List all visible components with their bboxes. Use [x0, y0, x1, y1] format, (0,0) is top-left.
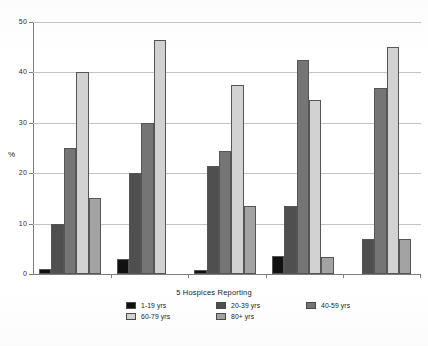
bar-60-79-yrs-group-1	[76, 72, 88, 274]
bar-80+-yrs-group-3	[244, 206, 256, 274]
bar-80+-yrs-group-1	[89, 198, 101, 274]
legend-label: 80+ yrs	[231, 313, 254, 320]
y-tick-mark	[29, 173, 33, 174]
x-axis-title: 5 Hospices Reporting	[0, 288, 428, 297]
legend-swatch-icon	[306, 302, 316, 309]
bar-1-19-yrs-group-3	[194, 270, 206, 274]
y-tick-label: 30	[5, 119, 27, 127]
legend-spacer	[306, 311, 376, 322]
legend-swatch-icon	[216, 302, 226, 309]
gridline	[33, 22, 421, 23]
legend-item-80-plus-yrs: 80+ yrs	[216, 311, 306, 322]
gridline	[33, 123, 421, 124]
chart-legend: 1-19 yrs 20-39 yrs 40-59 yrs 60-79 yrs 8…	[126, 300, 376, 322]
legend-swatch-icon	[126, 313, 136, 320]
legend-label: 60-79 yrs	[141, 313, 170, 320]
legend-label: 40-59 yrs	[321, 302, 350, 309]
legend-row-2: 60-79 yrs 80+ yrs	[126, 311, 376, 322]
bar-40-59-yrs-group-2	[141, 123, 153, 274]
legend-item-40-59-yrs: 40-59 yrs	[306, 300, 376, 311]
y-tick-label: 20	[5, 169, 27, 177]
bar-20-39-yrs-group-4	[284, 206, 296, 274]
y-axis-line	[33, 22, 34, 275]
y-tick-label: 0	[5, 270, 27, 278]
x-tick-mark	[420, 274, 421, 278]
plot-area	[33, 22, 421, 275]
bar-80+-yrs-group-5	[399, 239, 411, 274]
y-tick-label: 50	[5, 18, 27, 26]
bar-20-39-yrs-group-3	[207, 166, 219, 274]
bar-20-39-yrs-group-1	[51, 224, 63, 274]
y-tick-mark	[29, 224, 33, 225]
bar-40-59-yrs-group-4	[297, 60, 309, 274]
bar-80+-yrs-group-4	[321, 257, 333, 274]
y-tick-mark	[29, 72, 33, 73]
legend-swatch-icon	[126, 302, 136, 309]
bar-1-19-yrs-group-1	[39, 269, 51, 274]
x-tick-mark	[188, 274, 189, 278]
gridline	[33, 72, 421, 73]
y-tick-mark	[29, 123, 33, 124]
bar-60-79-yrs-group-4	[309, 100, 321, 274]
y-axis-title: %	[8, 150, 15, 159]
bar-40-59-yrs-group-1	[64, 148, 76, 274]
bar-40-59-yrs-group-5	[374, 88, 386, 274]
y-tick-label: 10	[5, 220, 27, 228]
bar-60-79-yrs-group-3	[231, 85, 243, 274]
bar-1-19-yrs-group-4	[272, 256, 284, 274]
legend-item-20-39-yrs: 20-39 yrs	[216, 300, 306, 311]
legend-row-1: 1-19 yrs 20-39 yrs 40-59 yrs	[126, 300, 376, 311]
bar-chart-figure: % 01020304050 5 Hospices Reporting 1-19 …	[0, 0, 428, 346]
bar-60-79-yrs-group-2	[154, 40, 166, 274]
bar-60-79-yrs-group-5	[387, 47, 399, 274]
x-tick-mark	[111, 274, 112, 278]
legend-item-1-19-yrs: 1-19 yrs	[126, 300, 216, 311]
legend-item-60-79-yrs: 60-79 yrs	[126, 311, 216, 322]
bar-20-39-yrs-group-2	[129, 173, 141, 274]
bar-1-19-yrs-group-2	[117, 259, 129, 274]
y-tick-mark	[29, 274, 33, 275]
y-tick-label: 40	[5, 68, 27, 76]
x-axis-line	[33, 274, 421, 275]
bar-40-59-yrs-group-3	[219, 151, 231, 274]
x-tick-mark	[343, 274, 344, 278]
x-tick-mark	[266, 274, 267, 278]
y-tick-mark	[29, 22, 33, 23]
legend-label: 1-19 yrs	[141, 302, 166, 309]
legend-swatch-icon	[216, 313, 226, 320]
bar-20-39-yrs-group-5	[362, 239, 374, 274]
legend-label: 20-39 yrs	[231, 302, 260, 309]
